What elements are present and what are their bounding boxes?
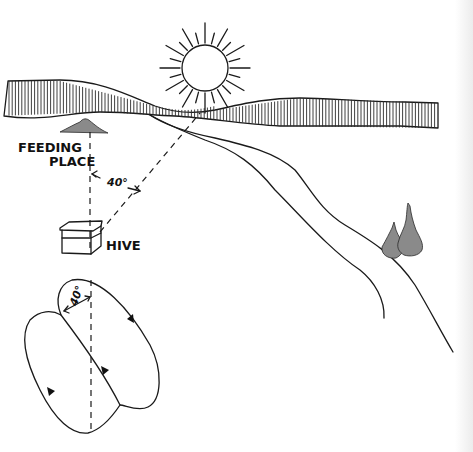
sun-ray xyxy=(229,59,240,62)
sun-ray xyxy=(223,86,231,94)
dance-angle-label: 40° xyxy=(67,284,87,309)
hive-label: HIVE xyxy=(106,238,141,253)
horizon-hills xyxy=(4,80,438,128)
diagram-canvas: FEEDING PLACE 40° HIVE 40° xyxy=(0,0,473,452)
sun-ray xyxy=(166,46,183,56)
waggle-dance-diagram: FEEDING PLACE 40° HIVE 40° xyxy=(0,0,473,452)
sun-ray xyxy=(223,43,231,51)
sun-ray xyxy=(170,74,181,77)
sun-ray xyxy=(211,33,214,44)
sun-ray xyxy=(180,43,188,51)
trees xyxy=(382,203,423,258)
sun-ray xyxy=(211,92,214,103)
sun-ray xyxy=(196,92,199,103)
sun-icon xyxy=(160,23,250,113)
sun-ray xyxy=(229,74,240,77)
sun-ray xyxy=(227,46,244,56)
page-edge-shade xyxy=(455,0,473,452)
sun-ray xyxy=(196,33,199,44)
feeding-place-label-line1: FEEDING xyxy=(18,140,82,155)
sun-ray xyxy=(166,81,183,91)
hive-icon xyxy=(60,221,102,254)
sun-ray xyxy=(218,90,228,107)
hive-to-sun-line xyxy=(100,113,200,232)
feeding-place-label-line2: PLACE xyxy=(49,154,95,169)
sun-ray xyxy=(218,29,228,46)
sun-ray xyxy=(180,86,188,94)
sun-ray xyxy=(170,59,181,62)
sun-ray xyxy=(227,81,244,91)
sun-ray xyxy=(183,90,193,107)
sun-ray xyxy=(183,29,193,46)
ground-angle-label: 40° xyxy=(106,176,128,189)
feeding-place-icon xyxy=(60,119,108,133)
waggle-dance-figure xyxy=(25,280,159,434)
dance-arrow-3 xyxy=(47,387,55,396)
